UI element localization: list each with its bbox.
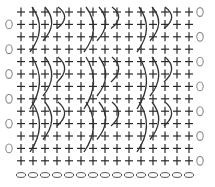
plus-icon xyxy=(161,144,169,153)
plus-icon xyxy=(101,144,109,153)
plus-icon xyxy=(137,119,145,128)
plus-icon xyxy=(41,70,49,79)
plus-icon xyxy=(185,156,193,165)
cable-arc-icon xyxy=(84,7,93,52)
plus-icon xyxy=(17,144,25,153)
plus-icon xyxy=(185,82,193,91)
chain-stitch-icon xyxy=(64,173,73,178)
plus-icon xyxy=(173,119,181,128)
plus-icon xyxy=(41,45,49,54)
plus-icon xyxy=(77,156,85,165)
cable-arc-icon xyxy=(84,57,93,109)
plus-icon xyxy=(125,156,133,165)
plus-icon xyxy=(149,119,157,128)
plus-icon xyxy=(53,45,61,54)
plus-icon xyxy=(77,32,85,41)
plus-icon xyxy=(185,107,193,116)
plus-icon xyxy=(17,32,25,41)
plus-icon xyxy=(53,20,61,29)
plus-icon xyxy=(125,8,133,17)
chain-stitch-icon xyxy=(136,173,145,178)
cable-arc-icon xyxy=(30,102,39,152)
plus-icon xyxy=(17,94,25,103)
chain-stitch-icon xyxy=(52,173,61,178)
plus-icon xyxy=(77,20,85,29)
plus-icon xyxy=(53,94,61,103)
plus-icon xyxy=(53,132,61,141)
zero-marker-icon xyxy=(6,144,12,153)
plus-icon xyxy=(173,20,181,29)
plus-icon xyxy=(161,132,169,141)
plus-icon xyxy=(113,144,121,153)
chain-stitch-icon xyxy=(112,173,121,178)
zero-marker-icon xyxy=(197,156,203,165)
plus-icon xyxy=(101,82,109,91)
plus-icon xyxy=(125,107,133,116)
plus-icon xyxy=(125,70,133,79)
chain-stitch-icon xyxy=(40,173,49,178)
plus-icon xyxy=(17,8,25,17)
cable-arc-icon xyxy=(97,57,106,96)
cable-arc-icon xyxy=(30,7,39,52)
cable-arc-icon xyxy=(137,57,146,109)
plus-icon xyxy=(173,70,181,79)
plus-icon xyxy=(41,94,49,103)
plus-icon xyxy=(149,144,157,153)
plus-icon xyxy=(125,45,133,54)
plus-icon xyxy=(77,8,85,17)
plus-icon xyxy=(65,32,73,41)
plus-icon xyxy=(17,132,25,141)
plus-icon xyxy=(77,82,85,91)
plus-icon xyxy=(161,107,169,116)
zero-marker-icon xyxy=(6,119,12,128)
plus-icon xyxy=(53,156,61,165)
zero-marker-icon xyxy=(6,20,12,29)
plus-icon xyxy=(29,20,37,29)
plus-icon xyxy=(53,107,61,116)
plus-icon xyxy=(173,57,181,66)
plus-icon xyxy=(161,119,169,128)
plus-icon xyxy=(29,45,37,54)
stitch-grid xyxy=(17,8,193,166)
plus-icon xyxy=(77,57,85,66)
plus-icon xyxy=(149,70,157,79)
plus-icon xyxy=(89,156,97,165)
plus-icon xyxy=(65,132,73,141)
plus-icon xyxy=(113,132,121,141)
plus-icon xyxy=(173,144,181,153)
plus-icon xyxy=(101,45,109,54)
plus-icon xyxy=(77,45,85,54)
plus-icon xyxy=(65,107,73,116)
plus-icon xyxy=(65,20,73,29)
plus-icon xyxy=(137,82,145,91)
plus-icon xyxy=(53,144,61,153)
plus-icon xyxy=(77,94,85,103)
plus-icon xyxy=(89,144,97,153)
chain-stitch-icon xyxy=(76,173,85,178)
plus-icon xyxy=(89,45,97,54)
foundation-chain xyxy=(16,173,193,178)
plus-icon xyxy=(101,156,109,165)
plus-icon xyxy=(173,132,181,141)
plus-icon xyxy=(173,107,181,116)
plus-icon xyxy=(113,45,121,54)
plus-icon xyxy=(161,156,169,165)
plus-icon xyxy=(185,20,193,29)
chain-stitch-icon xyxy=(160,173,169,178)
plus-icon xyxy=(125,32,133,41)
plus-icon xyxy=(185,119,193,128)
plus-icon xyxy=(173,45,181,54)
plus-icon xyxy=(41,144,49,153)
cable-arcs xyxy=(30,7,172,152)
plus-icon xyxy=(65,8,73,17)
plus-icon xyxy=(65,70,73,79)
plus-icon xyxy=(65,156,73,165)
plus-icon xyxy=(113,82,121,91)
plus-icon xyxy=(41,8,49,17)
chain-stitch-icon xyxy=(172,173,181,178)
plus-icon xyxy=(77,70,85,79)
cable-arc-icon xyxy=(43,102,52,140)
plus-icon xyxy=(125,119,133,128)
plus-icon xyxy=(137,156,145,165)
plus-icon xyxy=(125,94,133,103)
